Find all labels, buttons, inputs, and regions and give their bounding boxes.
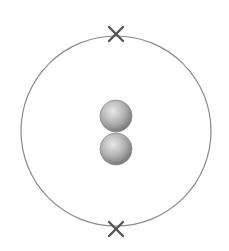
atom-diagram xyxy=(0,0,229,251)
electron-cross-top xyxy=(109,27,123,41)
nucleus-particle-top xyxy=(100,100,132,132)
nucleus-particle-bottom xyxy=(100,133,132,165)
electron-cross-bottom xyxy=(109,222,123,236)
